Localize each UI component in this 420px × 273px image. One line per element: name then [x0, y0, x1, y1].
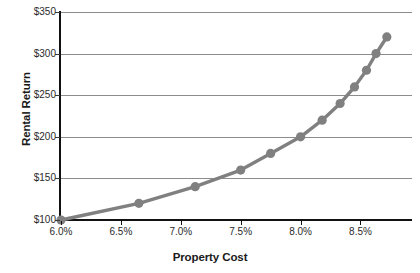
- x-axis-tick-mark: [181, 221, 182, 225]
- x-axis-tick-label: 8.5%: [333, 226, 387, 237]
- x-axis-title: Property Cost: [0, 251, 420, 263]
- x-axis-tick-mark: [121, 221, 122, 225]
- data-point-marker: [362, 66, 371, 75]
- series-markers: [56, 32, 391, 224]
- data-point-marker: [318, 116, 327, 125]
- data-point-marker: [191, 182, 200, 191]
- x-axis-tick-label: 6.0%: [34, 226, 88, 237]
- data-point-marker: [134, 199, 143, 208]
- data-point-marker: [266, 149, 275, 158]
- x-axis-tick-mark: [301, 221, 302, 225]
- line-chart: Rental Return $100$150$200$250$300$350 P…: [0, 0, 420, 273]
- data-point-marker: [371, 49, 380, 58]
- x-axis-tick-label: 8.0%: [274, 226, 328, 237]
- x-axis-tick-label: 7.0%: [154, 226, 208, 237]
- series-line: [61, 37, 387, 220]
- data-point-marker: [296, 132, 305, 141]
- y-axis-tick-mark: [55, 178, 60, 179]
- y-axis-tick-mark: [55, 220, 60, 221]
- data-point-marker: [336, 99, 345, 108]
- data-point-marker: [350, 82, 359, 91]
- y-axis-tick-mark: [55, 54, 60, 55]
- data-point-marker: [382, 32, 391, 41]
- x-axis-tick-label: 6.5%: [94, 226, 148, 237]
- y-axis-tick-mark: [55, 137, 60, 138]
- x-axis-tick-mark: [241, 221, 242, 225]
- y-axis-tick-mark: [55, 12, 60, 13]
- x-axis-tick-mark: [360, 221, 361, 225]
- x-axis-tick-label: 7.5%: [214, 226, 268, 237]
- x-axis-tick-mark: [61, 221, 62, 225]
- y-axis-tick-mark: [55, 95, 60, 96]
- data-point-marker: [236, 165, 245, 174]
